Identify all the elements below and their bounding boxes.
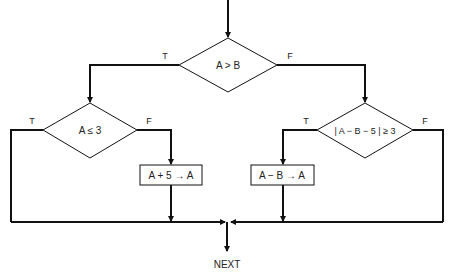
left-true-connector: [11, 130, 43, 222]
decision-main-true-label: T: [162, 51, 168, 61]
main-false-connector: [277, 65, 365, 102]
decision-right-false-label: F: [422, 116, 428, 126]
terminal-next-label: NEXT: [214, 259, 241, 270]
decision-main-false-label: F: [287, 51, 293, 61]
decision-main: A > B T F: [162, 38, 293, 92]
decision-right-label: | A − B − 5 | ≥ 3: [334, 126, 395, 136]
process-right-box: A − B → A: [251, 165, 314, 185]
right-false-connector: [413, 130, 443, 222]
decision-main-label: A > B: [216, 60, 241, 71]
decision-right: | A − B − 5 | ≥ 3 T F: [303, 103, 428, 158]
decision-right-true-label: T: [303, 116, 309, 126]
flowchart: A > B T F A ≤ 3 T F A + 5 → A | A − B − …: [0, 0, 453, 276]
main-true-connector: [90, 65, 179, 102]
right-true-connector: [283, 130, 317, 164]
decision-left-false-label: F: [146, 116, 152, 126]
process-left-box: A + 5 → A: [140, 165, 202, 185]
decision-left: A ≤ 3 T F: [29, 103, 152, 158]
process-left-label: A + 5 → A: [149, 170, 194, 181]
decision-left-label: A ≤ 3: [79, 125, 102, 136]
left-false-connector: [137, 130, 171, 164]
decision-left-true-label: T: [29, 116, 35, 126]
process-right-label: A − B → A: [259, 170, 305, 181]
